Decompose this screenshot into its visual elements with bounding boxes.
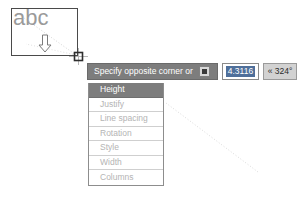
- menu-item-label: Rotation: [100, 129, 132, 138]
- options-square-icon[interactable]: [199, 66, 210, 77]
- text-object-label: abc: [13, 7, 48, 29]
- menu-item-label: Columns: [100, 173, 134, 182]
- menu-item-line-spacing[interactable]: Line spacing: [89, 112, 163, 127]
- options-square-glyph: [202, 69, 207, 74]
- menu-item-justify[interactable]: Justify: [89, 98, 163, 113]
- menu-item-style[interactable]: Style: [89, 141, 163, 156]
- menu-item-label: Style: [100, 143, 119, 152]
- menu-item-label: Height: [100, 85, 125, 94]
- dynamic-input-tooltip: Specify opposite corner or 4.3116 « 324°: [87, 63, 297, 80]
- option-dropdown-menu[interactable]: Height Justify Line spacing Rotation Sty…: [88, 83, 164, 186]
- angle-input[interactable]: « 324°: [263, 63, 297, 80]
- down-arrow-icon: [38, 34, 52, 53]
- distance-input[interactable]: 4.3116: [222, 63, 259, 80]
- command-prompt-text: Specify opposite corner or: [94, 67, 193, 76]
- distance-value: 4.3116: [226, 66, 255, 77]
- menu-item-width[interactable]: Width: [89, 156, 163, 171]
- menu-item-columns[interactable]: Columns: [89, 170, 163, 185]
- command-prompt-bar[interactable]: Specify opposite corner or: [87, 63, 218, 80]
- angle-value: « 324°: [268, 67, 293, 76]
- menu-item-label: Width: [100, 158, 122, 167]
- menu-item-height[interactable]: Height: [89, 83, 163, 98]
- menu-item-label: Justify: [100, 100, 124, 109]
- menu-item-rotation[interactable]: Rotation: [89, 127, 163, 142]
- crosshair-pickbox-icon: [69, 48, 88, 65]
- menu-item-label: Line spacing: [100, 114, 148, 123]
